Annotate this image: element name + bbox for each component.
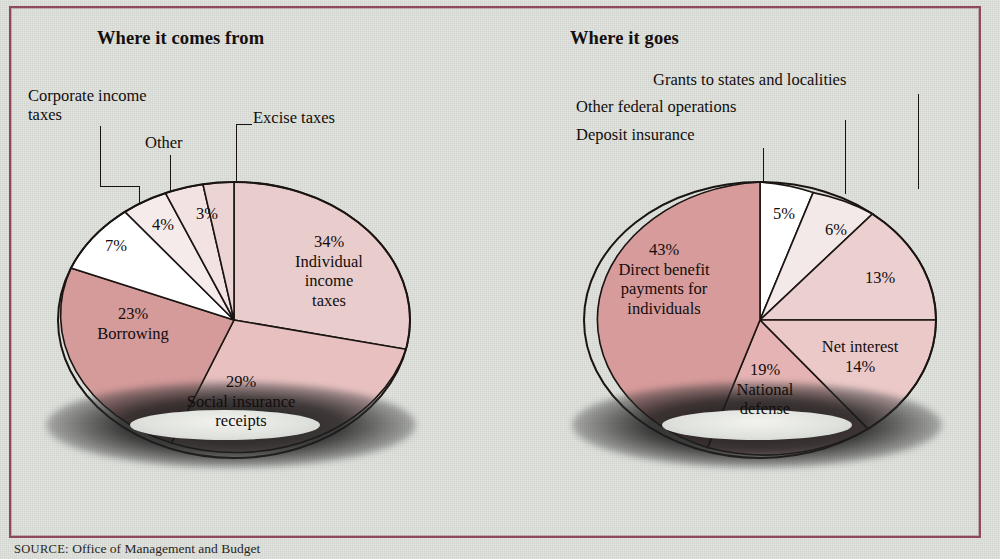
- callout-label-corporate-income-taxes: Corporate income taxes: [28, 86, 147, 124]
- pie-panel-where-it-goes: Where it goes Grants to states and local…: [500, 0, 1000, 559]
- leader-line-grants: [918, 94, 919, 189]
- callout-label-excise-taxes: Excise taxes: [253, 108, 335, 127]
- source-note: SOURCE: Office of Management and Budget: [14, 541, 260, 557]
- slice-label-4-percent: 4%: [143, 215, 183, 235]
- slice-label-social-insurance-receipts: 29% Social insurance receipts: [156, 372, 326, 431]
- page-title-left: Where it comes from: [97, 28, 264, 49]
- callout-label-other: Other: [145, 133, 183, 152]
- pie-chart-left: 34% Individual income taxes 29% Social i…: [58, 182, 410, 472]
- leader-line-excise-v: [236, 124, 237, 185]
- callout-label-deposit-insurance: Deposit insurance: [576, 125, 695, 144]
- page-title-right: Where it goes: [570, 28, 679, 49]
- source-prefix: SOURCE:: [14, 542, 69, 556]
- slice-label-individual-income-taxes: 34% Individual income taxes: [264, 232, 394, 310]
- slice-label-3-percent: 3%: [187, 204, 227, 224]
- slice-label-borrowing: 23% Borrowing: [68, 304, 198, 343]
- callout-label-other-federal-operations: Other federal operations: [576, 97, 736, 116]
- slice-label-net-interest: Net interest 14%: [798, 337, 922, 376]
- figure-canvas: Where it comes from Corporate income tax…: [0, 0, 1000, 559]
- slice-label-direct-benefit-payments: 43% Direct benefit payments for individu…: [590, 240, 738, 318]
- slice-label-13-percent: 13%: [856, 268, 904, 288]
- pie-panel-where-it-comes-from: Where it comes from Corporate income tax…: [0, 0, 500, 559]
- slice-label-national-defense: 19% National defense: [714, 360, 816, 419]
- leader-line-excise-h: [236, 124, 252, 125]
- source-text: Office of Management and Budget: [72, 541, 260, 556]
- slice-label-6-percent: 6%: [816, 220, 856, 240]
- leader-line-corporate-v1: [100, 126, 101, 186]
- pie-chart-right: 5% 6% 13% Net interest 14% 19% National …: [584, 182, 936, 472]
- slice-label-5-percent: 5%: [764, 204, 804, 224]
- slice-label-7-percent: 7%: [96, 236, 136, 256]
- callout-label-grants-to-states-and-localities: Grants to states and localities: [653, 70, 846, 89]
